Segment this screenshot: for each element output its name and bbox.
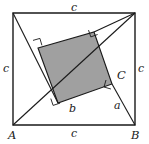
segment-topright-to-inner-topright	[94, 13, 135, 32]
label-leg-a: a	[114, 100, 121, 111]
label-vertex-A: A	[8, 130, 16, 142]
label-side-left: c	[3, 63, 9, 74]
right-angle-mark-inner-top-left	[33, 38, 42, 45]
geometry-figure: c c c c A B C a b	[0, 0, 149, 144]
label-leg-b: b	[69, 103, 76, 114]
label-side-top: c	[71, 2, 77, 13]
label-vertex-C: C	[117, 70, 126, 82]
label-side-right: c	[138, 63, 144, 74]
label-side-bottom: c	[71, 128, 77, 139]
diagram-canvas	[0, 0, 149, 144]
label-vertex-B: B	[131, 130, 139, 142]
